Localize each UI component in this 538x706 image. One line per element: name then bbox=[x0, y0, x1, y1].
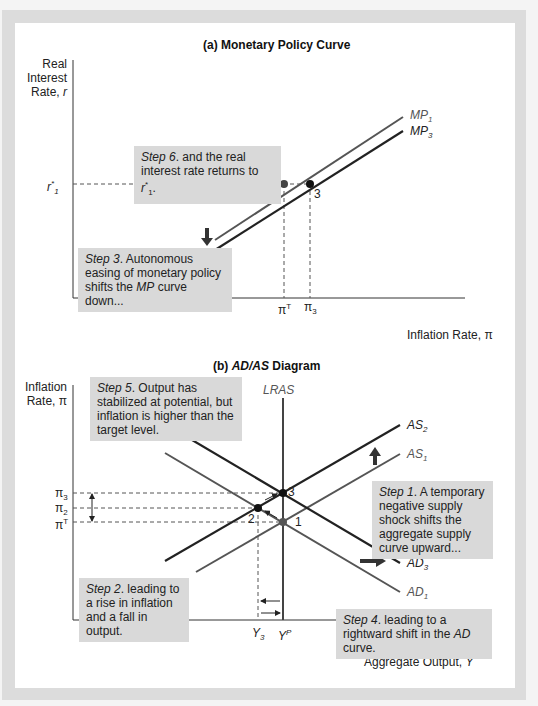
r1-star-tick: r*1 bbox=[47, 177, 59, 199]
point-2-label-b: 2 bbox=[248, 512, 255, 526]
point-3-a bbox=[306, 180, 314, 188]
y3-tick: Y3 bbox=[252, 626, 264, 645]
lras-label: LRAS bbox=[263, 383, 294, 397]
as2-label: AS2 bbox=[407, 418, 427, 437]
yp-tick: YP bbox=[278, 626, 291, 643]
panel-b-title: (b) AD/AS Diagram bbox=[213, 359, 320, 373]
step3-box: Step 3. Autonomous easing of monetary po… bbox=[78, 248, 232, 312]
step5-box: Step 5. Output has stabilized at potenti… bbox=[90, 377, 242, 441]
step2-box: Step 2. leading to a rise in inflation a… bbox=[79, 578, 189, 642]
piT-tick-a: πT bbox=[278, 300, 291, 317]
point-2-b bbox=[254, 504, 262, 512]
point-3-b bbox=[279, 489, 287, 497]
arrow-1-to-2 bbox=[265, 511, 277, 518]
pi3-tick-a: π3 bbox=[304, 300, 317, 319]
as1-curve bbox=[196, 454, 400, 572]
point-1-a bbox=[280, 180, 288, 188]
point-3-label-b: 3 bbox=[288, 485, 295, 499]
panel-b-y-axis-label: Inflation Rate, π bbox=[20, 380, 67, 408]
down-arrow-icon bbox=[201, 228, 213, 246]
point-3-label-a: 3 bbox=[314, 187, 321, 201]
piT-tick-b: πT bbox=[55, 515, 68, 532]
point-1-label-b: 1 bbox=[295, 515, 302, 529]
point-1-b bbox=[279, 518, 287, 526]
panel-a-title: (a) Monetary Policy Curve bbox=[203, 38, 350, 52]
up-arrow-icon bbox=[369, 447, 381, 465]
step6-box: Step 6. and the real interest rate retur… bbox=[134, 146, 281, 204]
panel-a-x-axis-label: Inflation Rate, π bbox=[407, 328, 493, 342]
ad1-label: AD1 bbox=[407, 585, 428, 604]
mp3-label: MP3 bbox=[410, 124, 432, 143]
as1-label: AS1 bbox=[407, 447, 427, 466]
panel-a-y-axis-label: Real Interest Rate, r bbox=[20, 57, 67, 99]
step4-box: Step 4. leading to a rightward shift in … bbox=[336, 609, 492, 659]
step1-box: Step 1. A temporary negative supply shoc… bbox=[372, 481, 493, 559]
